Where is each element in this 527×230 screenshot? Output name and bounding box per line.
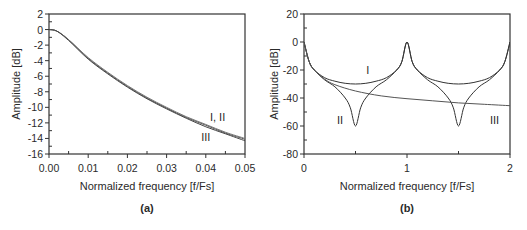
plot-frame xyxy=(49,14,245,154)
x-axis-label: Normalized frequency [f/Fs] xyxy=(80,180,215,192)
y-tick-label: -6 xyxy=(34,70,43,82)
panel-caption: (b) xyxy=(400,202,414,214)
y-tick-label: -20 xyxy=(283,64,298,76)
x-tick-label: 0.00 xyxy=(39,162,60,174)
plot-frame xyxy=(304,14,510,154)
y-tick-label: -2 xyxy=(34,39,43,51)
y-tick-label: 20 xyxy=(286,8,298,20)
curve-annotation: III xyxy=(490,114,499,126)
curve-annotation: II xyxy=(337,114,343,126)
chart-panel-b: 200-20-40-60-80012Normalized frequency [… xyxy=(262,0,527,230)
x-tick-label: 0.04 xyxy=(196,162,217,174)
y-tick-label: -60 xyxy=(283,120,298,132)
y-tick-label: -8 xyxy=(34,86,43,98)
x-tick-label: 0 xyxy=(301,162,307,174)
y-tick-label: -4 xyxy=(34,55,43,67)
series-line-I xyxy=(304,42,510,84)
curve-annotation: III xyxy=(201,131,210,143)
x-axis-label: Normalized frequency [f/Fs] xyxy=(340,180,475,192)
y-axis-label: Amplitude [dB] xyxy=(268,48,280,120)
y-tick-label: 0 xyxy=(37,24,43,36)
y-tick-label: 0 xyxy=(292,36,298,48)
series-group xyxy=(304,42,510,126)
y-tick-label: -14 xyxy=(28,132,43,144)
y-tick-label: -10 xyxy=(28,101,43,113)
x-tick-label: 0.03 xyxy=(156,162,177,174)
panel-caption: (a) xyxy=(140,202,154,214)
chart-a-svg: 20-2-4-6-8-10-12-14-160.000.010.020.030.… xyxy=(0,0,262,230)
x-tick-label: 0.02 xyxy=(117,162,138,174)
series-group xyxy=(49,30,245,141)
x-tick-label: 0.05 xyxy=(235,162,256,174)
series-line-III xyxy=(304,42,510,106)
y-tick-label: -40 xyxy=(283,92,298,104)
y-tick-label: 2 xyxy=(37,8,43,20)
y-tick-label: -12 xyxy=(28,117,43,129)
chart-panel-a: 20-2-4-6-8-10-12-14-160.000.010.020.030.… xyxy=(0,0,262,230)
curve-annotation: I, II xyxy=(210,111,225,123)
x-tick-label: 2 xyxy=(507,162,513,174)
x-tick-label: 0.01 xyxy=(78,162,99,174)
y-axis-label: Amplitude [dB] xyxy=(10,48,22,120)
chart-b-svg: 200-20-40-60-80012Normalized frequency [… xyxy=(262,0,527,230)
y-tick-label: -16 xyxy=(28,148,43,160)
x-tick-label: 1 xyxy=(404,162,410,174)
series-line-I xyxy=(49,30,245,140)
series-line-II xyxy=(304,42,510,126)
series-line-III xyxy=(49,30,245,141)
curve-annotation: I xyxy=(366,64,369,76)
y-tick-label: -80 xyxy=(283,148,298,160)
